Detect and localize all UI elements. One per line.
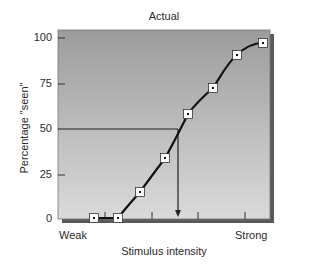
x-tick-label-weak: Weak bbox=[59, 229, 87, 241]
data-point bbox=[161, 154, 170, 163]
data-point bbox=[184, 110, 193, 119]
data-point bbox=[259, 39, 268, 48]
data-point bbox=[209, 84, 218, 93]
data-point bbox=[90, 214, 99, 223]
data-point bbox=[136, 188, 145, 197]
x-axis-label: Stimulus intensity bbox=[58, 245, 270, 257]
data-point bbox=[233, 51, 242, 60]
data-point bbox=[114, 214, 123, 223]
x-tick-label-strong: Strong bbox=[235, 229, 267, 241]
